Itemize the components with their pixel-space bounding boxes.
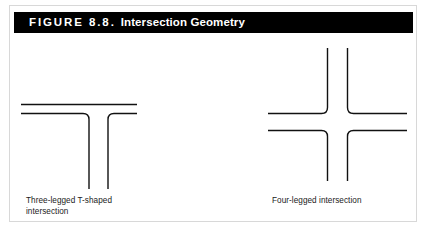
caption-four-legged: Four-legged intersection — [272, 196, 362, 207]
figure-title-bar: FIGURE 8.8. Intersection Geometry — [14, 12, 413, 33]
figure-title: FIGURE 8.8. Intersection Geometry — [14, 17, 245, 29]
figure-name-label: Intersection Geometry — [121, 17, 245, 29]
figure-number-label: FIGURE 8.8. — [29, 17, 116, 29]
figure-frame — [9, 5, 417, 222]
caption-three-legged-t: Three-legged T-shaped intersection — [26, 196, 112, 217]
